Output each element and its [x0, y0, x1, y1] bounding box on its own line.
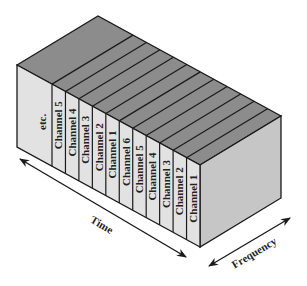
channel-label: Channel 2	[93, 123, 105, 171]
channel-label: Channel 3	[160, 159, 172, 207]
channel-label: Channel 6	[120, 137, 132, 185]
channel-label: Channel 5	[52, 101, 64, 149]
channel-label: Channel 5	[133, 145, 145, 193]
channel-label: Channel 1	[187, 175, 199, 223]
fdm-diagram: etc.Channel 5Channel 4Channel 3Channel 2…	[0, 0, 307, 286]
etc-label: etc.	[36, 114, 48, 130]
channel-label: Channel 4	[66, 108, 78, 156]
channel-label: Channel 3	[79, 115, 91, 163]
channel-label: Channel 1	[106, 131, 118, 179]
channel-label: Channel 4	[146, 152, 158, 200]
channel-label: Channel 2	[173, 167, 185, 215]
time-axis-label: Time	[89, 213, 116, 236]
